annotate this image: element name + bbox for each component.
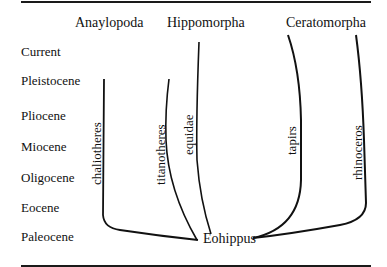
phylogenetic-tree: chaliotheres titanotheres equidae tapirs… xyxy=(0,0,387,267)
branch-label-rhinoceros: rhinoceros xyxy=(350,125,365,180)
root-label-eohippus: Eohippus xyxy=(203,231,256,247)
branch-line-equidae xyxy=(197,42,211,234)
branch-label-tapirs: tapirs xyxy=(284,126,299,155)
branch-line-titanotheres xyxy=(166,79,197,240)
branch-label-titanotheres: titanotheres xyxy=(153,124,168,185)
branch-label-equidae: equidae xyxy=(181,114,196,155)
branch-label-chaliotheres: chaliotheres xyxy=(89,122,104,185)
